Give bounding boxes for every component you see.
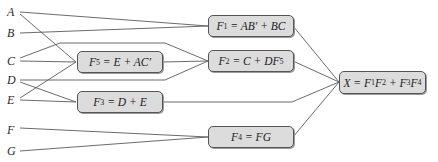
block-f5-lhs: F: [89, 56, 96, 68]
wire-f4-to-x: [293, 82, 339, 137]
block-f2-rhs: = C + DF: [230, 55, 280, 67]
input-label-g: G: [7, 144, 16, 158]
block-f3-lhs: F: [93, 96, 100, 108]
wire-f-to-f4: [20, 128, 208, 137]
input-label-e: E: [7, 93, 14, 107]
input-label-b: B: [7, 26, 14, 40]
block-f3: F3 = D + E: [77, 91, 163, 113]
block-x-sub-4: 4: [418, 78, 422, 87]
block-f2-rhs-sub: 5: [280, 57, 284, 66]
wire-f2-to-x: [293, 61, 339, 82]
input-label-a: A: [7, 5, 14, 19]
block-f5: F5 = E + AC′: [77, 51, 163, 73]
block-f1-rhs: = AB′ + BC: [227, 20, 285, 32]
input-label-f: F: [7, 123, 14, 137]
wire-e-to-f3: [20, 100, 76, 102]
block-x-term-f2: F: [375, 77, 382, 89]
block-f3-rhs: = D + E: [104, 96, 146, 108]
block-f5-rhs: = E + AC′: [100, 56, 151, 68]
block-x-term-f4: F: [411, 77, 418, 89]
wire-f3-to-x: [162, 82, 339, 102]
block-x-output: X = F1F2 + F3F4: [339, 71, 426, 94]
block-f4-rhs: = FG: [242, 131, 271, 143]
input-label-d: D: [7, 73, 16, 87]
block-f4: F4 = FG: [208, 126, 294, 148]
block-f1-lhs: F: [216, 20, 223, 32]
wire-d-to-f3: [20, 82, 76, 102]
wire-g-to-f4: [20, 137, 208, 151]
block-f2-lhs: F: [218, 55, 225, 67]
block-f1: F1 = AB′ + BC: [208, 15, 294, 37]
block-f4-lhs: F: [231, 131, 238, 143]
wire-b-to-f1: [20, 26, 208, 33]
input-label-c: C: [7, 54, 15, 68]
wire-f5-to-f2: [162, 61, 208, 62]
wire-c-to-f5: [20, 61, 76, 62]
block-f2: F2 = C + DF5: [208, 50, 294, 72]
wire-f1-to-x: [293, 26, 339, 82]
wire-a-to-f1: [20, 12, 208, 26]
block-x-plus-f3: + F: [386, 77, 407, 89]
block-x-lhs: X = F: [343, 77, 371, 89]
